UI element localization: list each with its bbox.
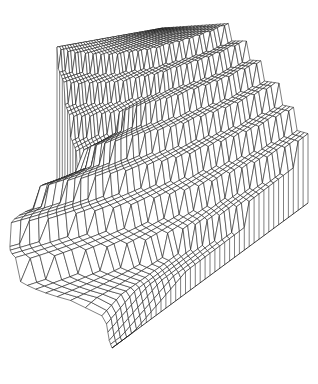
- staircase-wireframe-chart: [0, 0, 318, 384]
- figure-canvas: [0, 0, 318, 384]
- surface-mesh: [10, 24, 308, 349]
